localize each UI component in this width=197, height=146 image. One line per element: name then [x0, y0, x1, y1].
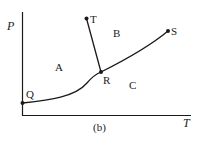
phase-diagram: P T Q R T S A B C (b): [0, 0, 197, 146]
region-a-label: A: [55, 61, 63, 73]
x-axis-label: T: [183, 116, 191, 130]
region-b-label: B: [113, 27, 120, 39]
y-axis-label: P: [6, 19, 15, 33]
figure-caption: (b): [93, 121, 106, 134]
curve-q-r: [23, 72, 102, 103]
point-r-label: R: [103, 74, 111, 86]
point-t-marker: [85, 17, 89, 21]
region-c-label: C: [129, 79, 136, 91]
point-t-label: T: [90, 13, 97, 25]
point-q-marker: [21, 101, 25, 105]
point-s-marker: [166, 29, 170, 33]
curve-r-t: [87, 19, 102, 73]
point-q-label: Q: [26, 88, 34, 100]
curve-r-s: [101, 31, 168, 72]
point-s-label: S: [171, 25, 177, 37]
